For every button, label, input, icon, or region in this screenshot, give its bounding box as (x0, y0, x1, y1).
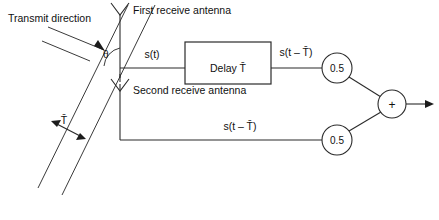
bottom-gain-to-summer-wire (349, 112, 381, 131)
transmit-arrow-line-lower (42, 41, 90, 61)
antenna-spacing-arrow (51, 120, 86, 140)
transmit-direction-label: Transmit direction (8, 12, 91, 24)
gain-bottom-label: 0.5 (330, 135, 344, 146)
transmit-direction-arrows (42, 27, 105, 61)
delayed-signal-top-label: s(t – T̄) (279, 46, 312, 58)
gain-top-label: 0.5 (330, 63, 344, 74)
delayed-signal-bottom-label: s(t – T̄) (223, 120, 256, 132)
second-antenna-label: Second receive antenna (133, 84, 246, 96)
spacing-delay-label: T̄ (61, 114, 68, 126)
delay-block-label: Delay T̄ (210, 62, 247, 74)
top-signal-label: s(t) (144, 48, 159, 60)
top-gain-to-summer-wire (349, 77, 381, 97)
output-arrow (406, 100, 434, 108)
wavefront-line-back (62, 5, 155, 195)
summer-plus-label: + (388, 98, 395, 112)
diagram-canvas: Transmit direction T̄ First receive ante… (0, 0, 439, 220)
first-antenna-label: First receive antenna (133, 4, 231, 16)
wavefront-line-front (38, 5, 128, 188)
output-arrow-head (425, 100, 434, 108)
antenna-block-diagram: Transmit direction T̄ First receive ante… (0, 0, 439, 220)
wavefront-lines (38, 5, 155, 195)
theta-label: θ (103, 49, 109, 60)
